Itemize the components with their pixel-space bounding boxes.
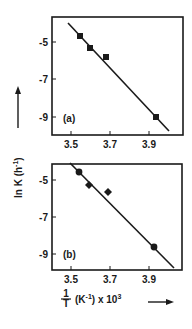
figure: -5 -7 -9 3.5 3.7 3.9 (a) -5 -7 -9 3.5 3.… <box>0 0 192 329</box>
panel-b-point <box>104 188 112 196</box>
panel-b-point <box>85 181 93 189</box>
panel-b-fit-line <box>70 163 174 268</box>
arrow-up-icon <box>15 86 21 94</box>
panel-a-point <box>103 54 109 60</box>
panel-b-label: (b) <box>63 249 76 260</box>
panel-b-point <box>151 244 158 251</box>
panel-a-point <box>87 45 93 51</box>
panel-b-ytick-label: -9 <box>39 249 48 260</box>
panel-a-xtick-label: 3.7 <box>103 139 117 150</box>
panel-a-xtick-label: 3.5 <box>64 139 78 150</box>
x-axis-label: 1 T (K-1) x 103 <box>61 288 174 309</box>
panel-b-xtick-label: 3.9 <box>142 274 156 285</box>
panel-a-point <box>153 114 159 120</box>
x-axis-unit: (K-1) x 103 <box>75 293 121 305</box>
y-axis-label: ln K (h-1) <box>12 86 24 198</box>
panel-b: -5 -7 -9 3.5 3.7 3.9 (b) <box>39 163 182 285</box>
panel-a: -5 -7 -9 3.5 3.7 3.9 (a) <box>39 17 183 150</box>
panel-a-point <box>77 33 83 39</box>
panel-a-xtick-label: 3.9 <box>142 139 156 150</box>
panel-b-ytick-label: -7 <box>39 212 48 223</box>
panel-a-ytick-label: -9 <box>39 112 48 123</box>
panel-b-xtick-label: 3.5 <box>64 274 78 285</box>
y-axis-label-text: ln K (h-1) <box>12 157 24 198</box>
x-axis-frac-den: T <box>63 298 69 309</box>
panel-a-ytick-label: -7 <box>39 74 48 85</box>
panel-b-ytick-label: -5 <box>39 175 48 186</box>
panel-a-ytick-label: -5 <box>39 37 48 48</box>
panel-a-label: (a) <box>63 113 75 124</box>
panel-b-xtick-label: 3.7 <box>103 274 117 285</box>
panel-b-point <box>76 169 83 176</box>
arrow-right-icon <box>166 299 174 305</box>
